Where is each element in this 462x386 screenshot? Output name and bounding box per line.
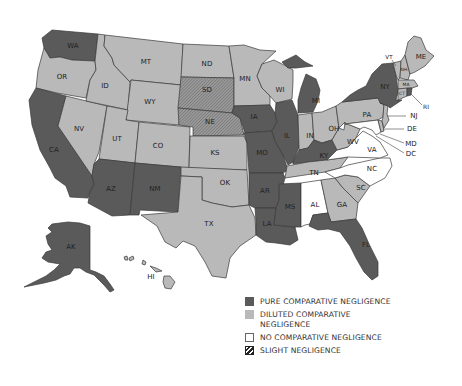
label-WV: WV (347, 138, 359, 146)
legend: PURE COMPARATIVE NEGLIGENCE DILUTED COMP… (245, 297, 410, 359)
label-DE: DE (407, 125, 417, 133)
legend-label: SLIGHT NEGLIGENCE (260, 346, 410, 356)
label-UT: UT (112, 135, 122, 143)
label-OH: OH (329, 125, 340, 133)
state-RI[interactable] (407, 88, 412, 96)
label-SC: SC (356, 184, 366, 192)
state-SD[interactable] (178, 77, 234, 113)
label-VA: VA (367, 146, 376, 154)
label-LA: LA (262, 220, 271, 228)
label-IL: IL (284, 132, 290, 140)
label-AZ: AZ (106, 185, 116, 193)
label-ME: ME (416, 53, 427, 61)
label-NE: NE (205, 118, 215, 126)
label-NJ: NJ (410, 112, 418, 120)
legend-item-none: NO COMPARATIVE NEGLIGENCE (245, 333, 410, 343)
label-MD: MD (405, 140, 417, 148)
label-PA: PA (363, 111, 372, 119)
label-KS: KS (210, 149, 220, 157)
label-WY: WY (144, 98, 156, 106)
legend-item-slight: SLIGHT NEGLIGENCE (245, 346, 410, 356)
label-GA: GA (337, 201, 348, 209)
label-WA: WA (67, 42, 79, 50)
label-OK: OK (220, 179, 231, 187)
pure-swatch-icon (245, 297, 254, 306)
label-OR: OR (57, 73, 68, 81)
label-TX: TX (203, 220, 213, 228)
legend-label: DILUTED COMPARATIVE NEGLIGENCE (260, 310, 370, 330)
label-AR: AR (260, 187, 270, 195)
label-ND: ND (202, 60, 213, 68)
label-IN: IN (306, 132, 314, 140)
label-ID: ID (101, 82, 109, 90)
label-IA: IA (250, 113, 257, 121)
label-CO: CO (153, 142, 164, 150)
label-MT: MT (141, 58, 152, 66)
slight-swatch-icon (245, 346, 254, 355)
label-CT: CT (399, 91, 405, 96)
label-SD: SD (202, 86, 212, 94)
label-NH: NH (401, 67, 408, 72)
label-KY: KY (320, 152, 329, 160)
label-AK: AK (66, 243, 76, 251)
label-MI: MI (312, 97, 320, 105)
label-NY: NY (380, 83, 390, 91)
label-NM: NM (149, 185, 160, 193)
none-swatch-icon (245, 333, 254, 342)
label-MN: MN (239, 75, 250, 83)
state-AK[interactable] (24, 222, 114, 292)
legend-label: NO COMPARATIVE NEGLIGENCE (260, 333, 410, 343)
label-VT: VT (385, 54, 393, 60)
label-NC: NC (367, 165, 377, 173)
label-NV: NV (74, 125, 84, 133)
legend-item-pure: PURE COMPARATIVE NEGLIGENCE (245, 297, 410, 307)
legend-item-diluted: DILUTED COMPARATIVE NEGLIGENCE (245, 310, 410, 330)
label-HI: HI (147, 273, 155, 281)
label-RI: RI (423, 103, 429, 110)
diluted-swatch-icon (245, 310, 254, 319)
label-TN: TN (308, 169, 319, 177)
label-MS: MS (285, 203, 296, 211)
label-FL: FL (362, 241, 370, 249)
label-MO: MO (256, 149, 268, 157)
legend-label: PURE COMPARATIVE NEGLIGENCE (260, 297, 410, 307)
label-WI: WI (275, 86, 284, 94)
label-DC: DC (406, 150, 416, 158)
label-AL: AL (311, 201, 320, 209)
label-MA: MA (402, 82, 410, 87)
label-CA: CA (49, 146, 59, 154)
